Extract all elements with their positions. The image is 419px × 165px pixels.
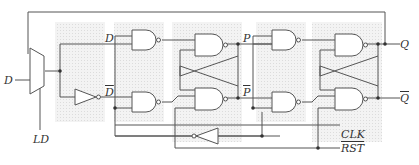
master-latch-nand-bottom — [195, 88, 223, 110]
label-pbar: P — [243, 87, 250, 98]
master-latch-nand-top — [195, 34, 223, 56]
slave-latch-nand-bottom — [335, 88, 363, 110]
label-qbar: Q — [400, 93, 409, 104]
slave-latch-nand-top — [335, 34, 363, 56]
label-p: P — [243, 33, 250, 44]
label-ld: LD — [33, 134, 49, 145]
master-input-nand-top — [132, 30, 156, 50]
load-mux — [30, 48, 44, 94]
label-d-internal: D — [105, 33, 114, 44]
label-q: Q — [400, 39, 409, 50]
label-dbar-internal: D — [105, 87, 114, 98]
label-d-input: D — [4, 75, 13, 86]
slave-input-nand-top — [272, 30, 296, 50]
master-input-nand-bottom — [132, 92, 156, 112]
slave-input-nand-bottom — [272, 92, 296, 112]
label-clk: CLK — [341, 129, 365, 140]
circuit-diagram: D LD D D P P Q Q CLK RST — [0, 0, 419, 165]
label-rst: RST — [341, 143, 364, 154]
